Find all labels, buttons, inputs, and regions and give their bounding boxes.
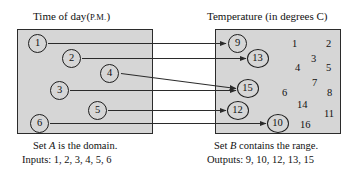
set-b-scatter-number-8: 8 — [327, 87, 332, 98]
set-a-caption-post: is the domain. — [55, 140, 117, 151]
set_a-element-2: 2 — [62, 49, 81, 68]
function-mapping-diagram: Time of day(P.M.) Temperature (in degree… — [0, 0, 355, 171]
set-b-scatter-number-14: 14 — [297, 99, 308, 110]
set-b-scatter-number-11: 11 — [324, 108, 334, 119]
set-b-scatter-number-16: 16 — [300, 119, 311, 130]
set-b-caption-pre: Set — [214, 140, 230, 151]
set_b-element-13: 13 — [247, 49, 269, 68]
set_a-element-6: 6 — [30, 114, 49, 133]
set_a-element-5: 5 — [88, 101, 107, 120]
set-b-scatter-number-3: 3 — [311, 53, 316, 64]
set-a-title-smallcaps: P.M. — [90, 12, 106, 22]
set-b-scatter-number-7: 7 — [312, 77, 317, 88]
set_b-element-15: 15 — [237, 79, 259, 98]
set-a-title-text: Time of day — [33, 10, 86, 22]
set-b-scatter-number-2: 2 — [326, 38, 331, 49]
set_b-element-9: 9 — [228, 34, 247, 53]
set-a-title-paren-close: ) — [106, 10, 110, 22]
set-a-caption-pre: Set — [33, 140, 49, 151]
set-b-title: Temperature (in degrees C) — [207, 10, 327, 23]
set-b-caption-line2: Outputs: 9, 10, 12, 13, 15 — [207, 153, 314, 166]
set_a-element-4: 4 — [100, 64, 119, 83]
set_b-element-12: 12 — [227, 101, 249, 120]
set_b-element-10: 10 — [267, 114, 289, 133]
set-b-caption-post: contains the range. — [236, 140, 318, 151]
set-a-caption-line2: Inputs: 1, 2, 3, 4, 5, 6 — [22, 153, 112, 166]
set-b-scatter-number-6: 6 — [282, 87, 287, 98]
set_a-element-1: 1 — [28, 34, 47, 53]
set-b-scatter-number-4: 4 — [295, 62, 300, 73]
set-a-caption-line1: Set A is the domain. — [33, 139, 117, 152]
set-b-scatter-number-5: 5 — [326, 62, 331, 73]
set_a-element-3: 3 — [50, 81, 69, 100]
set-b-scatter-number-1: 1 — [292, 38, 297, 49]
set-a-title: Time of day(P.M.) — [33, 10, 110, 24]
set-b-caption-line1: Set B contains the range. — [214, 139, 318, 152]
